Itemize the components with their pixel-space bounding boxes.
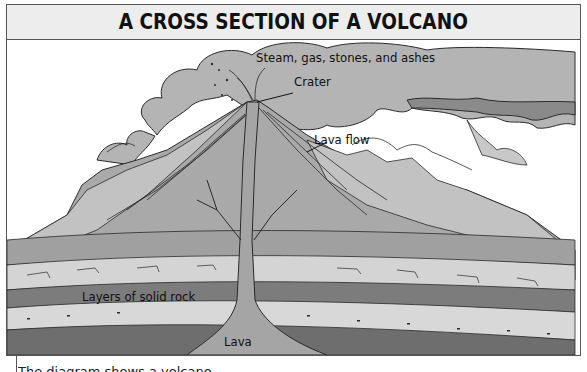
label-plume: Steam, gas, stones, and ashes: [256, 50, 435, 65]
caption-rule: [16, 356, 17, 372]
caption-text: The diagram shows a volcano: [18, 362, 212, 372]
label-crater: Crater: [294, 74, 331, 89]
label-rock-layers: Layers of solid rock: [82, 289, 195, 304]
diagram-title: A CROSS SECTION OF A VOLCANO: [119, 10, 468, 34]
label-lava: Lava: [224, 334, 252, 349]
title-bar: A CROSS SECTION OF A VOLCANO: [6, 4, 581, 40]
label-lava-flow: Lava flow: [314, 132, 370, 147]
